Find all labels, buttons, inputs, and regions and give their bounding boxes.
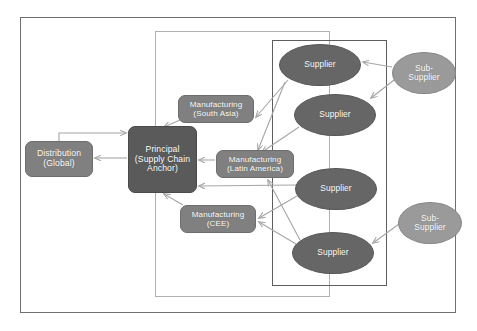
node-sub-supplier-2-label: Sub- Supplier	[414, 214, 446, 233]
node-supplier-2-label: Supplier	[319, 110, 351, 119]
node-principal[interactable]: Principal (Supply Chain Anchor)	[128, 126, 197, 193]
node-manufacturing-cee[interactable]: Manufacturing (CEE)	[180, 205, 256, 233]
node-supplier-2[interactable]: Supplier	[294, 94, 376, 136]
diagram-canvas: Distribution (Global) Principal (Supply …	[0, 0, 477, 331]
node-distribution[interactable]: Distribution (Global)	[25, 141, 93, 177]
node-supplier-4[interactable]: Supplier	[292, 232, 374, 274]
node-manufacturing-south-asia-label: Manufacturing (South Asia)	[190, 100, 243, 118]
node-manufacturing-latin-america-label: Manufacturing (Latin America)	[227, 155, 283, 173]
node-sub-supplier-1-label: Sub- Supplier	[408, 64, 440, 83]
node-sub-supplier-1[interactable]: Sub- Supplier	[392, 52, 456, 94]
node-manufacturing-south-asia[interactable]: Manufacturing (South Asia)	[178, 95, 254, 123]
node-manufacturing-cee-label: Manufacturing (CEE)	[192, 210, 245, 228]
node-distribution-label: Distribution (Global)	[37, 149, 81, 168]
node-supplier-3-label: Supplier	[320, 184, 352, 193]
node-principal-label: Principal (Supply Chain Anchor)	[135, 145, 190, 174]
node-supplier-3[interactable]: Supplier	[295, 168, 377, 210]
node-manufacturing-latin-america[interactable]: Manufacturing (Latin America)	[216, 150, 294, 178]
node-supplier-1-label: Supplier	[304, 60, 336, 69]
node-supplier-1[interactable]: Supplier	[279, 44, 361, 86]
node-sub-supplier-2[interactable]: Sub- Supplier	[398, 202, 462, 244]
node-supplier-4-label: Supplier	[317, 248, 349, 257]
